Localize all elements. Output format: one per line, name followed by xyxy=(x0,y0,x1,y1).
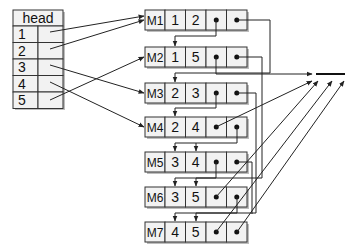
head-table: head 1 2 3 4 5 xyxy=(13,10,65,110)
node-value-a: 1 xyxy=(171,12,179,28)
node-value-b: 4 xyxy=(192,119,200,135)
head-row-3: 3 xyxy=(13,59,63,76)
node-value-b: 5 xyxy=(192,49,200,65)
head-row-4: 4 xyxy=(13,76,63,93)
node-value-a: 2 xyxy=(171,85,179,101)
node-label: M2 xyxy=(147,51,164,65)
node-value-b: 2 xyxy=(192,12,200,28)
node-value-a: 1 xyxy=(171,49,179,65)
node-label: M7 xyxy=(147,226,164,240)
node-m4: M424 xyxy=(145,117,249,139)
node-label: M4 xyxy=(147,121,164,135)
svg-text:2: 2 xyxy=(18,43,26,59)
node-label: M3 xyxy=(147,87,164,101)
head-row-2: 2 xyxy=(13,43,63,60)
svg-text:4: 4 xyxy=(18,76,26,92)
head-title: head xyxy=(22,10,53,26)
node-m2: M215 xyxy=(145,47,249,69)
node-m6: M635 xyxy=(145,187,249,209)
node-value-b: 5 xyxy=(192,224,200,240)
svg-text:5: 5 xyxy=(18,92,26,108)
head-row-5: 5 xyxy=(13,92,63,109)
node-m1: M112 xyxy=(145,10,249,32)
node-value-b: 4 xyxy=(192,154,200,170)
node-value-a: 4 xyxy=(171,224,179,240)
svg-text:3: 3 xyxy=(18,59,26,75)
node-value-b: 5 xyxy=(192,189,200,205)
linked-list-diagram: head 1 2 3 4 5 M112M215M323M424M534M635M… xyxy=(0,0,348,248)
node-value-b: 3 xyxy=(192,85,200,101)
svg-text:1: 1 xyxy=(18,26,26,42)
node-value-a: 2 xyxy=(171,119,179,135)
node-value-a: 3 xyxy=(171,189,179,205)
node-m7: M745 xyxy=(145,222,249,244)
node-label: M6 xyxy=(147,191,164,205)
node-m3: M323 xyxy=(145,83,249,105)
node-label: M1 xyxy=(147,14,164,28)
node-label: M5 xyxy=(147,156,164,170)
node-value-a: 3 xyxy=(171,154,179,170)
head-row-1: 1 xyxy=(13,26,63,43)
node-m5: M534 xyxy=(145,152,249,174)
